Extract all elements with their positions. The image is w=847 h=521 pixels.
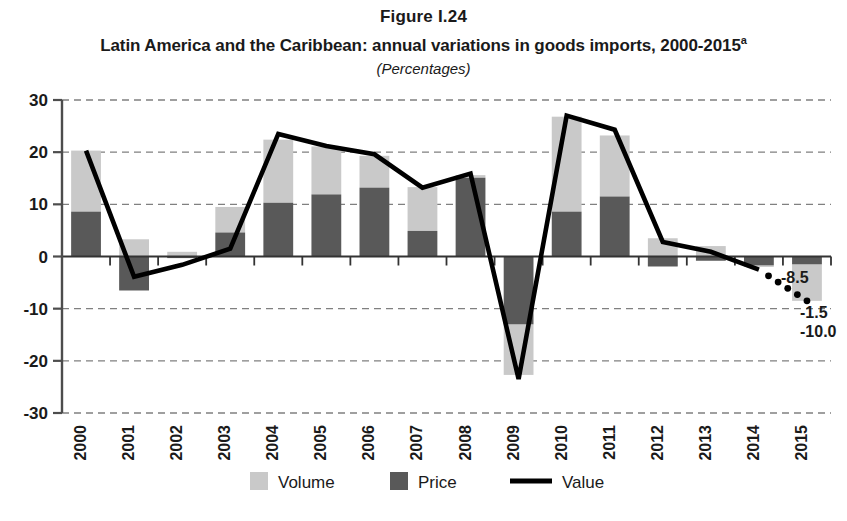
y-tick-label: 30 — [29, 91, 48, 110]
legend-label: Value — [562, 473, 604, 492]
y-axis-labels: 3020100-10-20-30 — [23, 91, 48, 423]
bar-price — [456, 178, 486, 257]
chart-legend: VolumePriceValue — [250, 472, 604, 492]
bar-price — [408, 231, 438, 257]
bar-volume — [167, 252, 197, 258]
value-line-projection-dot — [775, 279, 782, 286]
data-label: -10.0 — [800, 323, 837, 340]
bar-volume — [792, 264, 822, 301]
y-tick-label: 10 — [29, 195, 48, 214]
bar-volume — [311, 146, 341, 194]
legend-swatch-price — [390, 472, 408, 490]
page-title: Latin America and the Caribbean: annual … — [0, 28, 847, 58]
bar-volume — [648, 238, 678, 266]
bar-price — [167, 257, 197, 259]
x-tick-label: 2011 — [601, 425, 618, 460]
x-tick-label: 2012 — [649, 425, 666, 461]
bar-volume — [408, 187, 438, 231]
bar-price — [71, 212, 101, 257]
figure-subtitle: (Percentages) — [0, 58, 847, 80]
x-tick-label: 2005 — [312, 425, 329, 461]
y-tick-label: -10 — [23, 300, 48, 319]
x-tick-label: 2013 — [697, 425, 714, 461]
bar-volume — [744, 265, 774, 267]
bar-price — [552, 212, 582, 257]
x-tick-label: 2007 — [408, 425, 425, 461]
bar-volume — [456, 175, 486, 178]
bar-price — [263, 203, 293, 257]
value-line-projection-dot — [765, 272, 772, 279]
bar-volume — [215, 207, 245, 233]
bar-volume — [696, 246, 726, 261]
value-line-projection-dot — [794, 291, 801, 298]
bar-price — [311, 194, 341, 256]
bar-volume — [552, 117, 582, 212]
data-label: -8.5 — [781, 269, 809, 286]
bar-price — [119, 257, 149, 291]
title-block: Figure I.24 Latin America and the Caribb… — [0, 0, 847, 80]
bar-volume — [119, 239, 149, 290]
bar-price — [360, 188, 390, 257]
figure-title-text: Latin America and the Caribbean: annual … — [100, 36, 741, 55]
x-tick-label: 2015 — [793, 425, 810, 461]
bar-price — [744, 257, 774, 266]
value-line-layer — [86, 116, 810, 379]
zero-axis-line — [62, 257, 831, 266]
bar-price — [600, 197, 630, 257]
figure-number: Figure I.24 — [0, 6, 847, 28]
bars-layer — [71, 117, 822, 375]
value-line-solid — [86, 116, 759, 379]
footnote-marker: a — [741, 34, 747, 46]
x-tick-label: 2010 — [553, 425, 570, 461]
x-tick-label: 2006 — [360, 425, 377, 461]
bar-price — [648, 257, 678, 267]
bar-volume — [71, 151, 101, 212]
data-annotations: -8.5-1.5-10.0 — [781, 269, 837, 340]
bar-price — [696, 257, 726, 261]
x-tick-label: 2008 — [457, 425, 474, 461]
x-tick-label: 2000 — [72, 425, 89, 461]
x-tick-label: 2001 — [120, 425, 137, 461]
bar-volume — [360, 156, 390, 188]
value-line-projection-dot — [804, 297, 811, 304]
bar-price — [792, 257, 822, 265]
legend-label: Price — [418, 473, 457, 492]
x-tick-label: 2014 — [745, 425, 762, 461]
bar-price — [215, 233, 245, 257]
y-tick-label: 0 — [39, 248, 48, 267]
y-tick-label: -20 — [23, 352, 48, 371]
x-tick-label: 2009 — [505, 425, 522, 461]
value-line-projection-dot — [784, 285, 791, 292]
x-tick-label: 2003 — [216, 425, 233, 461]
axis-layer — [53, 100, 62, 413]
bar-volume — [263, 140, 293, 203]
bar-price — [504, 257, 534, 325]
legend-swatch-volume — [250, 472, 268, 490]
x-tick-label: 2002 — [168, 425, 185, 461]
y-tick-label: -30 — [23, 404, 48, 423]
y-tick-label: 20 — [29, 143, 48, 162]
gridlines — [62, 100, 831, 413]
data-label: -1.5 — [800, 304, 828, 321]
x-tick-label: 2004 — [264, 425, 281, 461]
legend-label: Volume — [278, 473, 335, 492]
bar-volume — [600, 135, 630, 196]
bar-volume — [504, 324, 534, 375]
x-axis-labels: 2000200120022003200420052006200720082009… — [72, 425, 810, 461]
